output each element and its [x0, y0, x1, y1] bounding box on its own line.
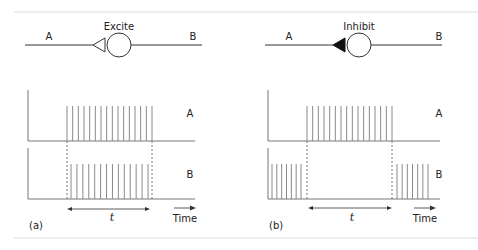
- time-label: Time: [412, 213, 437, 224]
- synapse-diagram: Excite A B A B t Time (a): [0, 0, 478, 250]
- raster-a: A: [28, 90, 195, 141]
- panel-a: Excite A B A B t Time (a): [25, 21, 202, 231]
- panel-label: (a): [29, 220, 43, 231]
- raster-a-spikes: [67, 106, 152, 141]
- neuron-b-soma: [107, 33, 131, 57]
- interval-label: t: [110, 211, 115, 224]
- neuron-b-soma: [347, 33, 371, 57]
- synapse-label: Excite: [104, 21, 134, 32]
- raster-b-spikes: [71, 164, 148, 199]
- circuit-b: Inhibit A B: [265, 21, 443, 57]
- interval-arrow: [308, 206, 392, 210]
- interval-arrow: [67, 207, 150, 211]
- panel-b: Inhibit A B A B t Time (b): [265, 21, 443, 231]
- raster-a: A: [268, 90, 443, 141]
- raster-a-spikes: [307, 106, 392, 141]
- raster-label-top: A: [436, 108, 443, 119]
- raster-b-spikes: [272, 164, 428, 199]
- time-arrow-icon: [174, 206, 196, 211]
- circuit-a: Excite A B: [25, 21, 202, 57]
- inhibitory-terminal-icon: [333, 38, 345, 52]
- raster-b: B: [268, 148, 443, 199]
- neuron-label-right: B: [436, 31, 443, 42]
- panel-label: (b): [269, 220, 283, 231]
- raster-label-top: A: [187, 108, 194, 119]
- raster-label-bottom: B: [187, 169, 194, 180]
- neuron-label-right: B: [190, 31, 197, 42]
- interval-label: t: [350, 211, 355, 224]
- neuron-label-left: A: [286, 31, 293, 42]
- synapse-label: Inhibit: [343, 21, 375, 32]
- time-arrow-icon: [414, 206, 436, 211]
- time-label: Time: [172, 213, 197, 224]
- raster-label-bottom: B: [436, 169, 443, 180]
- excitatory-terminal-icon: [93, 38, 105, 52]
- raster-b: B: [28, 148, 195, 199]
- neuron-label-left: A: [46, 31, 53, 42]
